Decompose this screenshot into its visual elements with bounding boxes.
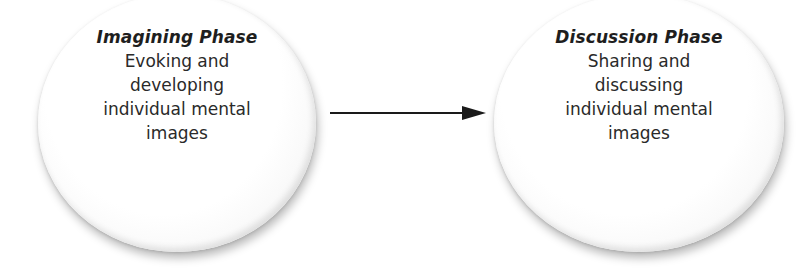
imagining-phase-description-line-2: developing: [130, 73, 224, 97]
imagining-phase-circle: Imagining Phase Evoking and developing i…: [38, 0, 316, 252]
discussion-phase-description-line-1: Sharing and: [588, 49, 691, 73]
discussion-phase-description-line-4: images: [608, 121, 670, 145]
imagining-phase-description-line-4: images: [146, 121, 208, 145]
discussion-phase-description-line-2: discussing: [595, 73, 684, 97]
discussion-phase-description-line-3: individual mental: [565, 97, 713, 121]
discussion-phase-circle: Discussion Phase Sharing and discussing …: [494, 0, 784, 252]
imagining-phase-description-line-3: individual mental: [103, 97, 251, 121]
discussion-phase-title: Discussion Phase: [555, 25, 722, 49]
arrow-right-icon: [328, 103, 488, 123]
imagining-phase-title: Imagining Phase: [97, 25, 258, 49]
imagining-phase-description-line-1: Evoking and: [125, 49, 230, 73]
